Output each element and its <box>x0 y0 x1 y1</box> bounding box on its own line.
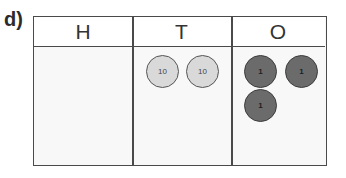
ones-cell: 1 1 1 <box>233 47 326 165</box>
header-tens: T <box>132 17 231 47</box>
place-value-chart: H T O 10 10 1 1 1 <box>33 16 327 166</box>
one-counter: 1 <box>244 55 277 88</box>
header-hundreds: H <box>34 17 132 47</box>
one-counter: 1 <box>285 55 318 88</box>
ten-counter: 10 <box>186 55 219 88</box>
question-label: d) <box>4 8 23 31</box>
one-counter: 1 <box>244 89 277 122</box>
tens-cell: 10 10 <box>133 47 231 165</box>
ten-counter: 10 <box>146 55 179 88</box>
hundreds-cell <box>34 47 132 165</box>
header-ones: O <box>231 17 325 47</box>
